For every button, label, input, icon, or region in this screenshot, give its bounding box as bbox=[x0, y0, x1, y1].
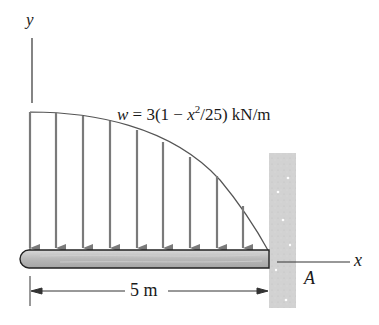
load-equation-var: x bbox=[187, 105, 195, 124]
beam-diagram bbox=[0, 0, 379, 325]
load-equation-suffix: /25) kN/m bbox=[200, 105, 270, 124]
fixed-wall-support bbox=[269, 153, 296, 308]
x-axis-label: x bbox=[354, 250, 362, 271]
dimension-label: 5 m bbox=[130, 280, 158, 301]
load-equation-label: w = 3(1 − x2/25) kN/m bbox=[117, 103, 271, 125]
cantilever-beam bbox=[20, 250, 269, 268]
load-curve bbox=[30, 112, 269, 252]
distributed-load-arrows bbox=[30, 112, 243, 248]
y-axis-label: y bbox=[26, 10, 34, 30]
load-equation-prefix: = 3(1 − bbox=[133, 105, 188, 124]
support-label-a: A bbox=[304, 268, 315, 289]
load-symbol: w bbox=[117, 105, 128, 124]
